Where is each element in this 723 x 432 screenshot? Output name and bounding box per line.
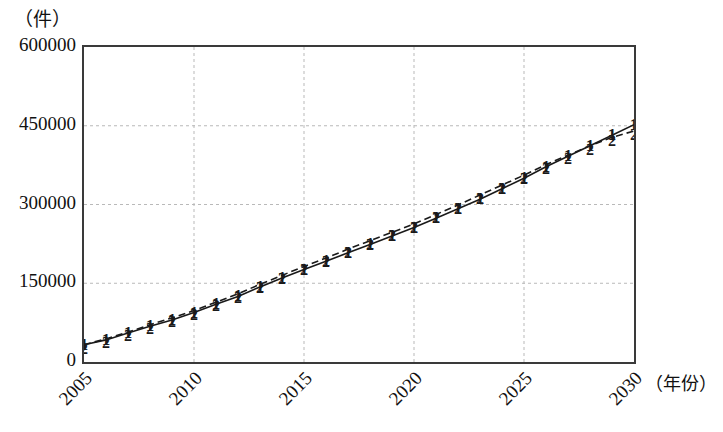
x-tick-label: 2020: [385, 368, 425, 408]
x-axis-tick-labels: 200520102015202020252030: [0, 0, 723, 432]
x-tick-label: 2005: [55, 368, 95, 408]
chart-figure: （件） 0150000300000450000600000 1111111111…: [0, 0, 723, 432]
x-tick-label: 2015: [275, 368, 315, 408]
x-tick-label: 2030: [605, 368, 645, 408]
x-tick-label: 2010: [165, 368, 205, 408]
x-axis-title: （年份）: [645, 369, 717, 395]
x-tick-label: 2025: [495, 368, 535, 408]
